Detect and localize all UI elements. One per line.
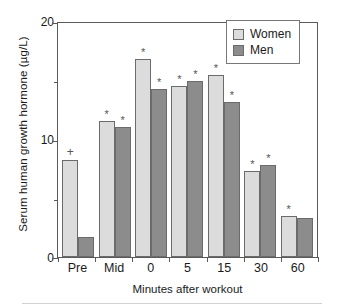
significance-marker-men-15: * — [225, 90, 239, 101]
significance-marker-women-Mid: * — [100, 109, 114, 120]
significance-marker-women-Pre: + — [63, 147, 77, 158]
x-tick-label-15: 15 — [206, 261, 243, 281]
x-tick-labels: PreMid05153060 — [57, 261, 318, 281]
significance-marker-men-30: * — [261, 153, 275, 164]
x-tick-label-Mid: Mid — [96, 261, 133, 281]
bar-men-Mid: * — [115, 127, 131, 257]
bar-group-5: ** — [169, 23, 205, 257]
significance-marker-women-0: * — [136, 47, 150, 58]
bar-women-0: * — [135, 59, 151, 257]
bar-women-30: * — [244, 171, 260, 257]
significance-marker-men-Mid: * — [116, 115, 130, 126]
x-tick-label-Pre: Pre — [59, 261, 96, 281]
legend-label-women: Women — [250, 28, 291, 40]
figure-chart: Serum human growth hormone (µg/L) 20 10 … — [0, 0, 342, 308]
bar-women-Mid: * — [99, 121, 115, 257]
x-axis-title: Minutes after workout — [57, 283, 318, 295]
x-tick-label-5: 5 — [169, 261, 206, 281]
bar-men-60 — [297, 218, 313, 257]
significance-marker-men-0: * — [152, 77, 166, 88]
legend-swatch-women-icon — [233, 29, 244, 40]
significance-marker-women-5: * — [172, 74, 186, 85]
bar-group-Pre: + — [60, 23, 96, 257]
chart-legend: Women Men — [226, 20, 300, 64]
legend-swatch-men-icon — [233, 45, 244, 56]
y-tick-label-20: 20 — [14, 16, 54, 28]
significance-marker-women-15: * — [209, 63, 223, 74]
significance-marker-women-30: * — [245, 159, 259, 170]
bar-women-Pre: + — [62, 160, 78, 257]
legend-item-women: Women — [233, 26, 291, 42]
significance-marker-men-5: * — [188, 69, 202, 80]
y-tick-label-0: 0 — [14, 252, 54, 264]
legend-label-men: Men — [250, 44, 273, 56]
footer-divider — [22, 303, 322, 304]
bar-men-5: * — [187, 81, 203, 257]
bar-men-0: * — [151, 89, 167, 257]
bar-group-0: ** — [133, 23, 169, 257]
bar-women-5: * — [171, 86, 187, 257]
bar-group-Mid: ** — [96, 23, 132, 257]
y-tick-label-10: 10 — [14, 134, 54, 146]
bar-men-30: * — [260, 165, 276, 257]
bar-men-15: * — [224, 102, 240, 257]
bar-women-15: * — [208, 75, 224, 257]
x-tick-label-0: 0 — [132, 261, 169, 281]
bar-men-Pre — [78, 237, 94, 257]
legend-item-men: Men — [233, 42, 291, 58]
significance-marker-women-60: * — [282, 204, 296, 215]
x-tick-label-30: 30 — [243, 261, 280, 281]
x-tick-7 — [318, 257, 319, 262]
x-tick-label-60: 60 — [279, 261, 316, 281]
bar-women-60: * — [281, 216, 297, 257]
